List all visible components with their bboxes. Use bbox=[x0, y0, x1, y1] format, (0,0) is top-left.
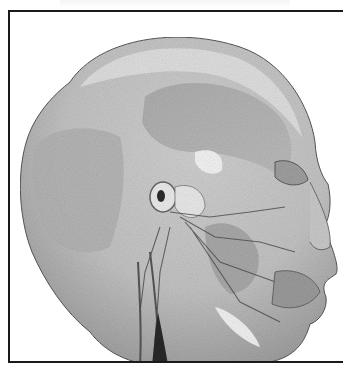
ear-canal-opening bbox=[157, 190, 165, 202]
dissected-head-illustration bbox=[10, 12, 343, 363]
photo-frame bbox=[8, 10, 343, 363]
scan-artifact bbox=[60, 0, 290, 8]
